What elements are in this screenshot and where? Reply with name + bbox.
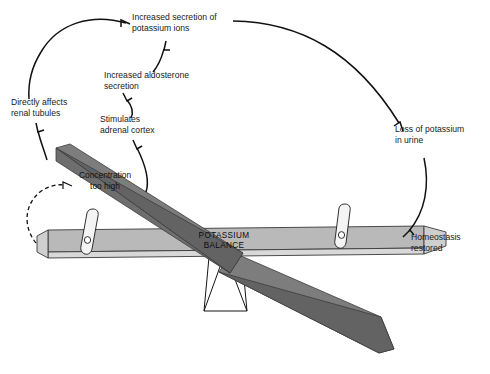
- node-directly-affects: Directly affects renal tubules: [11, 97, 67, 118]
- node-increased-aldosterone-line-2: secretion: [104, 81, 139, 91]
- beam-label-line-1: Concentration: [79, 170, 131, 180]
- arrow-renal-tubules-to-beam: [36, 123, 47, 160]
- platform-label-line-2: BALANCE: [204, 241, 245, 250]
- node-increased-secretion-line-2: potassium ions: [132, 23, 189, 33]
- node-directly-affects-line-2: renal tubules: [11, 108, 60, 118]
- platform-label-potassium-balance: POTASSIUM BALANCE: [199, 231, 250, 250]
- potassium-balance-diagram: Concentration too high POTASSIUM BALANCE: [0, 0, 490, 374]
- arrow-aldosterone-to-secretion: [153, 41, 170, 72]
- node-increased-secretion-line-1: Increased secretion of: [132, 12, 217, 22]
- balance-scale-group: Concentration too high POTASSIUM BALANCE: [37, 144, 446, 353]
- arrow-loss-to-homeostasis: [403, 158, 426, 237]
- node-loss-of-potassium-line-1: Loss of potassium: [395, 124, 464, 134]
- arrow-concentration-to-stimulates: [133, 140, 147, 192]
- node-homeostasis-restored-line-1: Homeostasis: [411, 232, 461, 242]
- node-increased-aldosterone: Increased aldosterone secretion: [104, 70, 189, 91]
- tilted-beam-lower: [219, 252, 394, 353]
- node-homeostasis-restored-line-2: restored: [411, 243, 443, 253]
- node-stimulates-adrenal-line-1: Stimulates: [100, 114, 140, 124]
- diagram-canvas: Concentration too high POTASSIUM BALANCE: [0, 0, 490, 374]
- node-directly-affects-line-1: Directly affects: [11, 97, 67, 107]
- node-increased-aldosterone-line-1: Increased aldosterone: [104, 70, 189, 80]
- node-loss-of-potassium: Loss of potassium in urine: [395, 124, 464, 145]
- node-increased-secretion: Increased secretion of potassium ions: [132, 12, 217, 33]
- arrow-secretion-to-loss-of-potassium: [233, 21, 403, 131]
- platform-label-line-1: POTASSIUM: [199, 231, 250, 240]
- text-nodes-group: Increased secretion of potassium ions In…: [11, 12, 464, 253]
- node-stimulates-adrenal: Stimulates adrenal cortex: [100, 114, 155, 135]
- node-loss-of-potassium-line-2: in urine: [395, 135, 423, 145]
- node-homeostasis-restored: Homeostasis restored: [411, 232, 461, 253]
- node-stimulates-adrenal-line-2: adrenal cortex: [100, 125, 155, 135]
- beam-label-line-2: too high: [90, 181, 120, 191]
- flow-arrows-group: [27, 19, 426, 243]
